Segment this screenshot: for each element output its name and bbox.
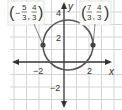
svg-text:,: ,	[28, 11, 31, 21]
right-point	[90, 42, 95, 47]
right-y-num: 4	[97, 3, 102, 12]
right-leader-line	[93, 24, 95, 45]
y-axis-label: y	[67, 1, 74, 12]
coordinate-graph: x y −2 2 4 2 −2 ( − 5 3 , 4 3 ) ( 7 3 , …	[0, 0, 122, 110]
left-x-num: 5	[22, 3, 27, 12]
svg-text:): )	[38, 4, 43, 21]
left-y-den: 3	[32, 13, 37, 22]
x-tick-neg2: −2	[33, 66, 43, 76]
svg-text:): )	[104, 4, 109, 21]
x-axis-left-arrow-icon	[12, 59, 19, 65]
y-axis-down-arrow-icon	[61, 101, 67, 108]
left-x-sign: −	[15, 8, 20, 18]
y-tick-neg2: −2	[50, 83, 60, 93]
x-tick-2: 2	[87, 66, 92, 76]
y-axis-up-arrow-icon	[61, 2, 67, 9]
left-y-num: 4	[32, 3, 37, 12]
left-x-den: 3	[22, 13, 27, 22]
svg-text:,: ,	[93, 11, 96, 21]
x-axis-label: x	[108, 66, 115, 77]
x-axis-right-arrow-icon	[105, 59, 112, 65]
right-x-num: 7	[87, 3, 92, 12]
left-point-label: ( − 5 3 , 4 3 )	[9, 3, 43, 22]
y-tick-4: 4	[56, 8, 61, 18]
right-x-den: 3	[87, 13, 92, 22]
left-point	[40, 42, 45, 47]
y-tick-2: 2	[56, 33, 61, 43]
right-y-den: 3	[97, 13, 102, 22]
